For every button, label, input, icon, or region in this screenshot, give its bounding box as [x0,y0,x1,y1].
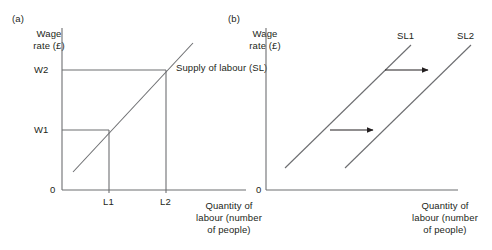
panel-a-supply-curve [73,43,193,172]
panel-b-curve-sl1 [285,45,411,168]
panel-a-plot [0,0,246,250]
panel-b-plot [246,0,492,250]
panel-a: (a) Wage rate (£) W2 W1 0 L1 L2 Supply o… [0,0,246,250]
panel-b-curve-sl2 [345,45,471,168]
panel-b: (b) Wage rate (£) 0 SL1 SL2 Quantity of … [246,0,492,250]
figure-root: (a) Wage rate (£) W2 W1 0 L1 L2 Supply o… [0,0,492,250]
panel-b-letter: (b) [228,13,240,24]
